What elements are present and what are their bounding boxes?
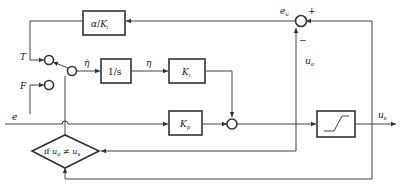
saturation-block [317, 111, 355, 137]
us-to-eu-line [306, 21, 372, 124]
plus-sign: + [308, 6, 316, 16]
f-input-line [30, 85, 44, 114]
svg-text:1/s: 1/s [108, 67, 122, 77]
eta-dot-label: η̇ [84, 58, 90, 68]
eta-label: η [146, 58, 152, 68]
kp-block: Kp [169, 111, 202, 135]
ua-label: ua [305, 56, 314, 67]
switch-arm [53, 62, 68, 68]
eu-sum-node [296, 16, 307, 27]
gain-to-t-line [30, 21, 83, 60]
condition-label: if ua ≠ us [44, 147, 80, 157]
ua-sum-node [227, 119, 237, 129]
alpha-over-ki-block: α/Ki [83, 11, 125, 35]
t-switch-node [45, 56, 54, 65]
t-label: T [20, 52, 27, 62]
condition-diamond: if ua ≠ us [32, 135, 99, 168]
minus-sign: − [299, 35, 307, 45]
ki-to-sum-line [205, 71, 232, 117]
ki-block: Ki [169, 59, 205, 83]
eu-label: eu [280, 6, 289, 17]
e-input-line [5, 121, 168, 124]
us-label: us [378, 110, 387, 121]
integrator-block: 1/s [101, 59, 131, 83]
f-switch-node [45, 81, 54, 90]
e-label: e [12, 112, 17, 122]
alpha-ki-label: α/Ki [91, 19, 109, 30]
switch-common-node [68, 67, 77, 76]
block-diagram: α/Ki T F η̇ 1/s η Ki e Kp ua [0, 0, 400, 187]
f-label: F [19, 81, 27, 91]
